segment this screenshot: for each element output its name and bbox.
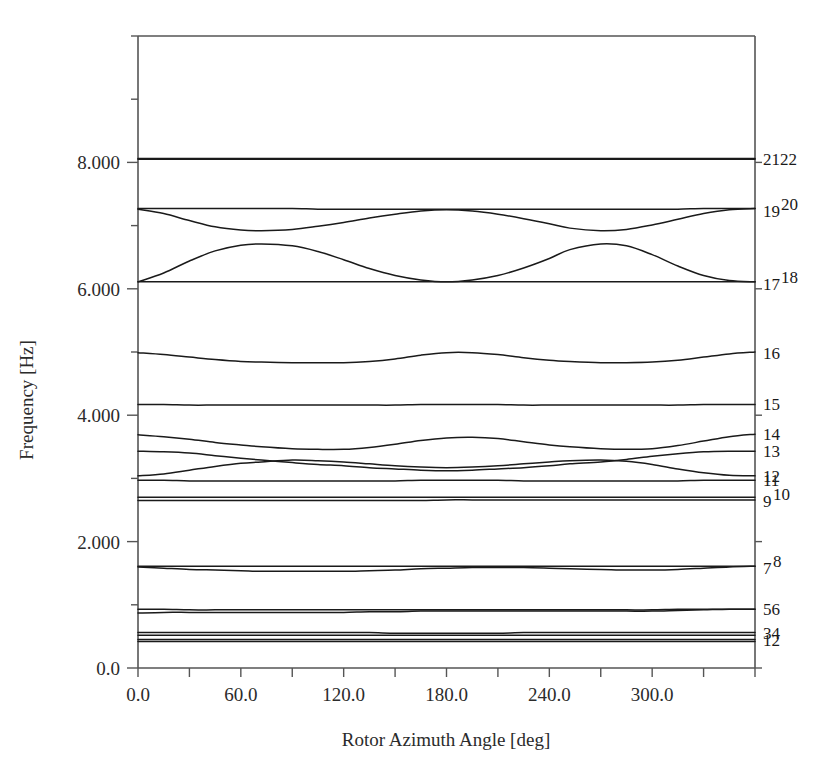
curve-label-group: 15 [763,395,780,414]
curve-label: 9 [763,492,772,511]
curve-label: 16 [763,344,780,363]
curve-label: 56 [763,600,780,619]
y-tick-label: 0.0 [96,658,120,679]
x-axis-title: Rotor Azimuth Angle [deg] [342,729,550,750]
x-tick-label: 0.0 [126,684,150,705]
curve-label-secondary: 18 [781,268,798,287]
y-axis-title: Frequency [Hz] [16,340,37,460]
x-tick-label: 120.0 [322,684,365,705]
curve-label-group: 2122 [763,150,797,169]
curve-label: 12 [763,631,780,650]
curve-label: 7 [763,559,772,578]
mode-curve-5 [138,609,755,610]
curve-label: 15 [763,395,780,414]
y-tick-label: 2.000 [77,532,120,553]
y-tick-label: 6.000 [77,279,120,300]
curve-label-secondary: 20 [781,195,798,214]
y-tick-label: 8.000 [77,152,120,173]
chart-figure: 0.060.0120.0180.0240.0300.0 0.02.0004.00… [0,0,836,773]
x-tick-label: 60.0 [224,684,257,705]
curve-label: 19 [763,202,780,221]
curve-label-group: 56 [763,600,780,619]
mode-curve-20 [138,208,755,209]
mode-curve-3 [138,633,755,634]
x-tick-label: 300.0 [631,684,674,705]
curve-label: 2122 [763,150,797,169]
frequency-vs-azimuth-plot: 0.060.0120.0180.0240.0300.0 0.02.0004.00… [0,0,836,773]
mode-curve-15 [138,404,755,405]
mode-curve-11 [138,480,755,481]
curve-label: 13 [763,442,780,461]
curve-label-secondary: 8 [773,552,782,571]
x-tick-label: 240.0 [528,684,571,705]
curve-label: 17 [763,275,781,294]
mode-curve-10 [138,500,755,501]
curve-label-group: 13 [763,442,780,461]
y-tick-label: 4.000 [77,405,120,426]
figure-background [0,0,836,773]
curve-label-secondary: 10 [773,485,790,504]
x-tick-label: 180.0 [425,684,468,705]
curve-label-group: 12 [763,631,780,650]
curve-label-group: 16 [763,344,780,363]
